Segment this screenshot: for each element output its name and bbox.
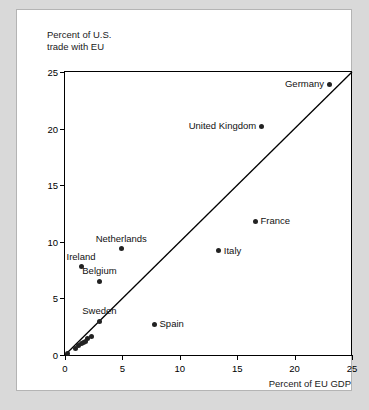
x-tick-25 bbox=[352, 355, 353, 360]
x-tick-label-0: 0 bbox=[62, 363, 67, 374]
x-tick-10 bbox=[180, 355, 181, 360]
x-tick-label-25: 25 bbox=[347, 363, 358, 374]
data-point-label-sweden: Sweden bbox=[82, 306, 116, 316]
x-tick-label-5: 5 bbox=[120, 363, 125, 374]
data-point-label-netherlands: Netherlands bbox=[96, 234, 147, 244]
y-tick-label-15: 15 bbox=[47, 180, 58, 191]
x-axis-title: Percent of EU GDP bbox=[269, 378, 351, 389]
data-point-label-spain: Spain bbox=[160, 319, 184, 329]
data-point-label-ireland: Ireland bbox=[67, 252, 96, 262]
data-point-unlabeled-16[interactable] bbox=[65, 351, 70, 356]
y-axis-title: Percent of U.S. trade with EU bbox=[47, 29, 111, 52]
y-tick-20 bbox=[60, 129, 65, 130]
y-tick-15 bbox=[60, 185, 65, 186]
x-tick-label-20: 20 bbox=[289, 363, 300, 374]
chart-panel: Percent of U.S. trade with EU 0510152025… bbox=[16, 9, 352, 391]
y-tick-label-25: 25 bbox=[47, 67, 58, 78]
x-tick-15 bbox=[237, 355, 238, 360]
data-point-label-united-kingdom: United Kingdom bbox=[189, 121, 257, 131]
data-point-france[interactable] bbox=[253, 219, 258, 224]
data-point-united-kingdom[interactable] bbox=[259, 124, 264, 129]
x-tick-label-10: 10 bbox=[175, 363, 186, 374]
data-point-label-france: France bbox=[261, 216, 291, 226]
y-tick-label-20: 20 bbox=[47, 123, 58, 134]
y-tick-5 bbox=[60, 298, 65, 299]
data-point-belgium[interactable] bbox=[97, 279, 102, 284]
y-tick-label-10: 10 bbox=[47, 236, 58, 247]
data-point-sweden[interactable] bbox=[97, 319, 102, 324]
data-point-label-germany: Germany bbox=[285, 79, 324, 89]
data-point-label-italy: Italy bbox=[224, 246, 241, 256]
x-tick-5 bbox=[122, 355, 123, 360]
x-tick-label-15: 15 bbox=[232, 363, 243, 374]
data-point-spain[interactable] bbox=[152, 322, 157, 327]
y-tick-25 bbox=[60, 72, 65, 73]
data-point-netherlands[interactable] bbox=[119, 246, 124, 251]
figure-root: Percent of U.S. trade with EU 0510152025… bbox=[0, 0, 369, 410]
y-tick-label-5: 5 bbox=[53, 293, 58, 304]
data-point-label-belgium: Belgium bbox=[82, 266, 116, 276]
data-point-germany[interactable] bbox=[327, 82, 332, 87]
y-tick-label-0: 0 bbox=[53, 350, 58, 361]
plot-area: 0510152025 0510152025 GermanyUnited King… bbox=[64, 72, 352, 356]
x-tick-20 bbox=[295, 355, 296, 360]
data-point-unlabeled-15[interactable] bbox=[73, 346, 78, 351]
y-tick-10 bbox=[60, 242, 65, 243]
